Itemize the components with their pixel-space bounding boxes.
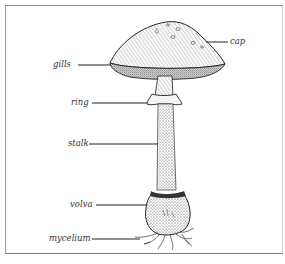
label-ring: ring bbox=[71, 97, 89, 107]
label-mycelium: mycelium bbox=[49, 233, 91, 243]
label-gills: gills bbox=[53, 59, 71, 69]
cap-shape bbox=[110, 22, 225, 80]
label-cap: cap bbox=[230, 36, 245, 46]
label-volva: volva bbox=[70, 199, 93, 209]
label-stalk: stalk bbox=[68, 138, 89, 148]
